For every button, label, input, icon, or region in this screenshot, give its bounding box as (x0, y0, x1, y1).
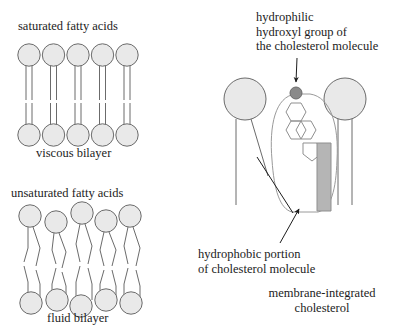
unsaturated-upper-heads (19, 202, 141, 233)
annotation-leaders (257, 58, 299, 243)
label-hydrophobic-portion: hydrophobic portion of cholesterol molec… (198, 247, 315, 276)
unsaturated-upper-tails (24, 224, 140, 268)
cholesterol-graphic (224, 78, 366, 212)
saturated-lower-heads (18, 124, 138, 146)
cholesterol-flanking-tails (236, 119, 352, 205)
saturated-bilayer-graphic (18, 44, 138, 146)
label-unsaturated-fatty-acids: unsaturated fatty acids (11, 186, 123, 201)
unsaturated-bilayer-graphic (19, 202, 142, 317)
membrane-cholesterol-leader (257, 157, 293, 213)
saturated-upper-tails (26, 66, 130, 100)
cholesterol-hydrophobic-tail (317, 143, 331, 211)
hydroxyl-group-dot (290, 87, 302, 99)
label-viscous-bilayer: viscous bilayer (36, 146, 111, 161)
label-hydrophilic-hydroxyl-group: hydrophilic hydroxyl group of the choles… (256, 10, 378, 54)
cholesterol-steroid-rings (286, 103, 321, 161)
label-saturated-fatty-acids: saturated fatty acids (18, 19, 118, 34)
saturated-upper-heads (18, 44, 138, 66)
hydrophilic-arrow (296, 58, 297, 82)
label-membrane-integrated-cholesterol: membrane-integrated cholesterol (247, 286, 397, 315)
label-fluid-bilayer: fluid bilayer (47, 311, 108, 326)
hydrophobic-arrow (280, 209, 299, 243)
